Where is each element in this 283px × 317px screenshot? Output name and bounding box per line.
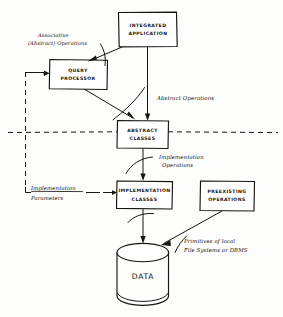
label-implementation-parameters: Implementation Parameters <box>30 185 83 201</box>
label-implementation-parameters-line2: Parameters <box>30 195 64 201</box>
label-abstract-operations-line1: Abstract Operations <box>156 95 214 102</box>
edge-app-to-abstract-classes <box>145 47 150 121</box>
node-data-store[interactable]: DATA <box>117 243 169 305</box>
label-primitives-local-file-systems: Primitives of local File Systems or DBMS <box>183 238 248 254</box>
node-implementation-classes[interactable]: IMPLEMENTATION CLASSES <box>117 181 173 209</box>
diagram-canvas: INTEGRATED APPLICATION QUERY PROCESSOR A… <box>0 0 283 317</box>
node-abstract-classes[interactable]: ABSTRACT CLASSES <box>117 121 169 149</box>
label-implementation-operations-line2: Operations <box>162 162 193 169</box>
edge-query-processor-to-abstract-classes <box>85 89 136 120</box>
edge-implementation-classes-to-data <box>128 209 154 244</box>
node-preexisting-operations[interactable]: PREEXISTING OPERATIONS <box>200 181 255 211</box>
node-query-processor-line1: QUERY <box>68 68 88 73</box>
label-implementation-operations-line1: Implementation <box>158 154 204 161</box>
label-primitives-line2: File Systems or DBMS <box>183 247 248 254</box>
node-preexisting-operations-line2: OPERATIONS <box>208 197 246 202</box>
node-data-store-line1: DATA <box>132 272 154 281</box>
label-implementation-parameters-line1: Implementation <box>30 185 76 192</box>
node-integrated-application-line1: INTEGRATED <box>130 23 167 28</box>
node-preexisting-operations-line1: PREEXISTING <box>207 189 246 194</box>
node-implementation-classes-line1: IMPLEMENTATION <box>118 188 170 193</box>
node-query-processor-line2: PROCESSOR <box>60 76 95 81</box>
node-query-processor[interactable]: QUERY PROCESSOR <box>49 60 107 90</box>
node-abstract-classes-line2: CLASSES <box>130 136 156 141</box>
label-abstract-operations: Abstract Operations <box>156 95 214 102</box>
edge-abstract-to-implementation-classes <box>126 149 153 181</box>
label-implementation-operations: Implementation Operations <box>158 154 204 170</box>
node-abstract-classes-line1: ABSTRACT <box>127 128 158 133</box>
node-integrated-application-line2: APPLICATION <box>128 31 167 36</box>
label-primitives-line1: Primitives of local <box>183 238 235 245</box>
node-implementation-classes-line2: CLASSES <box>132 197 158 202</box>
node-integrated-application[interactable]: INTEGRATED APPLICATION <box>119 12 178 47</box>
label-associative-line1: Associative <box>37 32 69 38</box>
label-associative-line2: (Abstract) Operations <box>28 40 87 47</box>
query-processor-parameter-connector <box>26 70 50 76</box>
label-associative-abstract-operations: Associative (Abstract) Operations <box>28 32 87 48</box>
